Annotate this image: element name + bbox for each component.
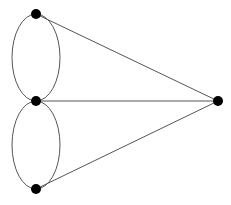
node-bottom (31, 184, 41, 194)
node-top (31, 9, 41, 19)
edge-bottom-right (36, 101, 218, 189)
straight-edges (36, 14, 218, 189)
edge-lower-loop (12, 101, 60, 189)
node-right (213, 96, 223, 106)
graph-diagram (0, 0, 231, 205)
edge-upper-loop (12, 14, 60, 101)
edge-top-right (36, 14, 218, 101)
node-middle (31, 96, 41, 106)
